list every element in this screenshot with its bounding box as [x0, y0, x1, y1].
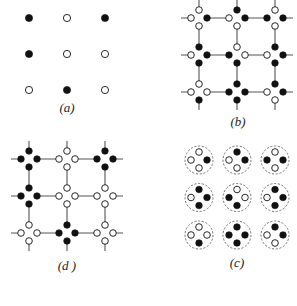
filled-site-dot	[196, 60, 203, 67]
filled-site-dot	[234, 81, 241, 88]
filled-site-dot	[196, 202, 203, 209]
panel-c-label: (c)	[230, 255, 244, 270]
filled-site-dot	[242, 89, 249, 96]
open-site-dot	[242, 52, 249, 59]
open-site-dot	[272, 23, 279, 30]
open-site-dot	[72, 156, 79, 163]
filled-site-dot	[204, 52, 211, 59]
open-site-dot	[234, 23, 241, 30]
open-site-dot	[64, 164, 71, 171]
filled-site-dot	[242, 232, 249, 239]
filled-site-dot	[272, 81, 279, 88]
open-site-dot	[102, 185, 109, 192]
filled-site-dot	[280, 194, 287, 201]
filled-site-dot	[64, 238, 71, 245]
open-site-dot	[234, 186, 241, 193]
open-site-dot	[102, 201, 109, 208]
filled-site-dot	[196, 240, 203, 247]
open-site-dot	[264, 52, 271, 59]
open-site-dot	[204, 232, 211, 239]
filled-site-dot	[196, 97, 203, 104]
open-site-dot	[196, 149, 203, 156]
filled-site-dot	[272, 60, 279, 67]
open-site-dot	[101, 50, 108, 57]
open-site-dot	[26, 238, 33, 245]
open-site-dot	[242, 194, 249, 201]
open-site-dot	[102, 238, 109, 245]
open-site-dot	[196, 7, 203, 14]
filled-site-dot	[234, 224, 241, 231]
open-site-dot	[101, 86, 108, 93]
filled-site-dot	[272, 202, 279, 209]
open-site-dot	[204, 89, 211, 96]
filled-site-dot	[25, 50, 32, 57]
open-site-dot	[264, 194, 271, 201]
filled-site-dot	[25, 14, 32, 21]
open-site-dot	[234, 44, 241, 51]
panel-b-label: (b)	[230, 114, 245, 129]
open-site-dot	[63, 50, 70, 57]
open-site-dot	[64, 201, 71, 208]
filled-site-dot	[26, 201, 33, 208]
open-site-dot	[264, 89, 271, 96]
filled-site-dot	[64, 222, 71, 229]
panel-c	[185, 146, 289, 249]
open-site-dot	[272, 97, 279, 104]
filled-site-dot	[272, 186, 279, 193]
filled-site-dot	[280, 232, 287, 239]
filled-site-dot	[26, 164, 33, 171]
filled-site-dot	[226, 52, 233, 59]
filled-site-dot	[242, 15, 249, 22]
filled-site-dot	[234, 240, 241, 247]
figure-canvas: (a) (b) (d ) (c)	[0, 0, 297, 306]
filled-site-dot	[18, 193, 25, 200]
panel-d-label: (d )	[58, 258, 76, 273]
open-site-dot	[94, 193, 101, 200]
open-site-dot	[188, 52, 195, 59]
filled-site-dot	[234, 60, 241, 67]
filled-site-dot	[34, 156, 41, 163]
filled-site-dot	[234, 97, 241, 104]
open-site-dot	[102, 222, 109, 229]
filled-site-dot	[272, 44, 279, 51]
filled-site-dot	[26, 148, 33, 155]
open-site-dot	[72, 193, 79, 200]
panel-b	[181, 0, 293, 110]
open-site-dot	[94, 230, 101, 237]
filled-site-dot	[26, 185, 33, 192]
open-site-dot	[188, 15, 195, 22]
filled-site-dot	[204, 194, 211, 201]
filled-site-dot	[204, 157, 211, 164]
open-site-dot	[188, 157, 195, 164]
filled-site-dot	[34, 193, 41, 200]
open-site-dot	[188, 232, 195, 239]
filled-site-dot	[226, 194, 233, 201]
filled-site-dot	[72, 230, 79, 237]
open-site-dot	[272, 149, 279, 156]
open-site-dot	[272, 165, 279, 172]
open-site-dot	[272, 7, 279, 14]
filled-site-dot	[110, 156, 117, 163]
filled-site-dot	[102, 164, 109, 171]
filled-site-dot	[280, 15, 287, 22]
open-site-dot	[110, 230, 117, 237]
open-site-dot	[110, 193, 117, 200]
panel-a	[25, 14, 108, 93]
panel-d	[11, 141, 123, 251]
panel-a-label: (a)	[59, 100, 74, 115]
filled-site-dot	[272, 224, 279, 231]
open-site-dot	[56, 193, 63, 200]
filled-site-dot	[18, 156, 25, 163]
open-site-dot	[196, 81, 203, 88]
filled-site-dot	[280, 52, 287, 59]
open-site-dot	[18, 230, 25, 237]
open-site-dot	[264, 232, 271, 239]
filled-site-dot	[102, 148, 109, 155]
filled-site-dot	[63, 86, 70, 93]
open-site-dot	[63, 14, 70, 21]
open-site-dot	[196, 23, 203, 30]
filled-site-dot	[280, 89, 287, 96]
filled-site-dot	[226, 232, 233, 239]
open-site-dot	[226, 157, 233, 164]
filled-site-dot	[204, 15, 211, 22]
